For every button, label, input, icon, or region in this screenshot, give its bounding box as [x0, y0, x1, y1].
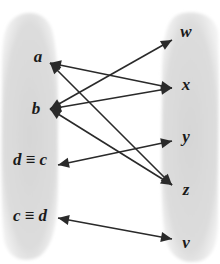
node-label-a: a: [34, 47, 43, 66]
arrow-b-z: [50, 109, 172, 185]
node-label-z: z: [182, 180, 190, 199]
node-label-b: b: [32, 99, 41, 118]
node-label-w: w: [180, 22, 192, 41]
node-label-y: y: [180, 127, 190, 146]
node-label-x: x: [181, 75, 191, 94]
mapping-diagram: abd ≡ cc ≡ dwxyzv: [0, 0, 220, 264]
node-label-v: v: [182, 233, 190, 252]
mapping-arrows: [50, 40, 172, 242]
right-set-codomain: [162, 13, 219, 262]
arrow-a-x: [50, 60, 172, 90]
arrow-cd-v: [58, 215, 172, 242]
arrow-dc-y: [58, 138, 172, 167]
node-label-cd: c ≡ d: [13, 206, 48, 225]
arrowhead-icon: [58, 158, 70, 168]
node-label-dc: d ≡ c: [13, 150, 48, 169]
arrowhead-icon: [58, 215, 70, 225]
